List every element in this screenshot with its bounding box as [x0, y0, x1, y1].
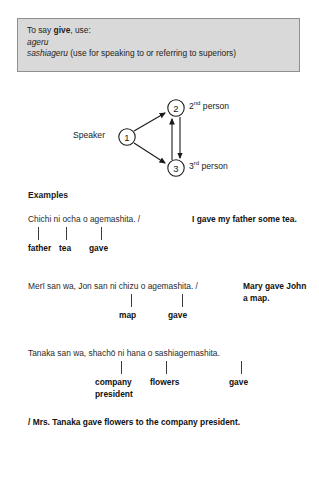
example-2-gloss: map	[119, 310, 136, 322]
example-1-gloss: father	[28, 243, 51, 255]
info-line1-prefix: To say	[27, 25, 54, 35]
node-3-number: 3	[173, 163, 178, 174]
example-3-romaji: Tanaka san wa, shachō ni hana o sashiage…	[28, 348, 220, 358]
example-3-gloss: company president	[95, 377, 151, 400]
info-box-line-1: To say give, use:	[27, 25, 291, 37]
gloss-tick	[182, 294, 183, 307]
examples-heading: Examples	[28, 190, 68, 200]
example-3-gloss: gave	[229, 377, 248, 389]
third-person-text: person	[199, 161, 228, 171]
info-line3-term: sashiageru	[27, 48, 68, 58]
example-1-translation: I gave my father some tea.	[192, 214, 310, 226]
info-box: To say give, use: ageru sashiageru (use …	[17, 18, 300, 72]
example-1-gloss: gave	[89, 243, 108, 255]
info-line1-keyword: give	[54, 25, 71, 35]
gloss-tick	[101, 227, 102, 240]
gloss-tick	[38, 227, 39, 240]
gloss-tick	[131, 294, 132, 307]
info-line2-term: ageru	[27, 37, 48, 47]
example-3-gloss: flowers	[150, 377, 179, 389]
gloss-tick	[66, 227, 67, 240]
diagram-arrows: 1 2 3	[0, 92, 319, 184]
person-relationship-diagram: 1 2 3	[0, 92, 319, 184]
speaker-label: Speaker	[73, 130, 105, 140]
second-person-label: 2nd person	[189, 101, 229, 111]
info-box-line-3: sashiageru (use for speaking to or refer…	[27, 48, 291, 60]
info-line1-suffix: , use:	[70, 25, 90, 35]
node-1-number: 1	[124, 132, 129, 143]
example-3-translation: / Mrs. Tanaka gave flowers to the compan…	[28, 417, 243, 429]
info-box-line-2: ageru	[27, 37, 291, 49]
arrow-speaker-to-second	[134, 113, 165, 131]
node-2-number: 2	[173, 103, 178, 114]
example-2-gloss: gave	[168, 310, 187, 322]
third-person-label: 3rd person	[189, 161, 228, 171]
second-person-text: person	[200, 101, 229, 111]
gloss-tick	[241, 361, 242, 374]
arrow-speaker-to-third	[134, 143, 165, 163]
gloss-tick	[121, 361, 122, 374]
example-1-romaji: Chichi ni ocha o agemashita. /	[28, 214, 140, 224]
example-1-gloss: tea	[59, 243, 71, 255]
gloss-tick	[166, 361, 167, 374]
info-line3-note: (use for speaking to or referring to sup…	[68, 48, 236, 58]
example-2-romaji: Merī san wa, Jon san ni chizu o agemashi…	[28, 281, 198, 291]
example-2-translation: Mary gave John a map.	[243, 281, 313, 304]
